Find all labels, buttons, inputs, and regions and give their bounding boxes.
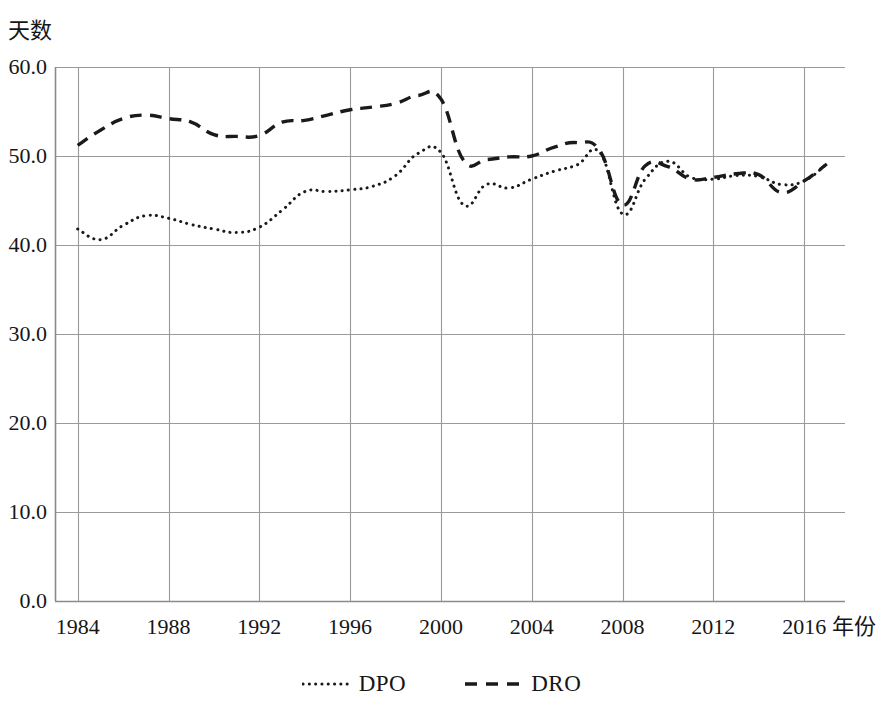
chart-legend: DPODRO (0, 672, 883, 695)
legend-label: DRO (531, 672, 581, 695)
legend-label: DPO (359, 672, 407, 695)
legend-swatch-dotted (302, 677, 350, 691)
legend-item-dro[interactable]: DRO (464, 672, 581, 695)
legend-swatch-dashed (464, 677, 522, 691)
series-line-dpo (78, 146, 827, 239)
line-chart: 天数 年份 0.010.020.030.040.050.060.0 198419… (0, 0, 883, 714)
series-line-dro (78, 91, 827, 205)
legend-item-dpo[interactable]: DPO (302, 672, 407, 695)
plot-area (0, 0, 883, 714)
